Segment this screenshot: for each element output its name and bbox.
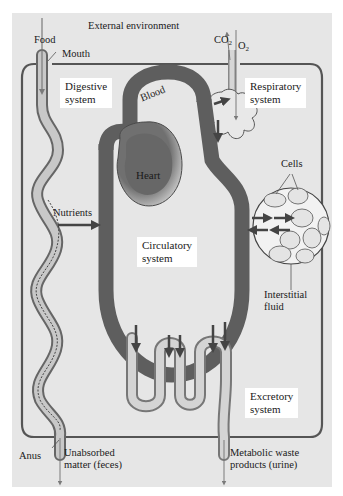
- urine-label: Metabolic wasteproducts (urine): [230, 447, 299, 471]
- excretory-system-label: Excretorysystem: [245, 388, 298, 418]
- heart-label: Heart: [136, 169, 160, 181]
- food-label: Food: [34, 34, 56, 46]
- respiratory-system-label: Respiratorysystem: [245, 78, 306, 108]
- mouth-label: Mouth: [62, 48, 90, 60]
- cells-label: Cells: [281, 158, 303, 170]
- digestive-system-label: Digestivesystem: [60, 78, 112, 108]
- interstitial-fluid-label: Interstitialfluid: [264, 289, 307, 313]
- co2-label: CO2: [214, 34, 232, 49]
- nutrients-label: Nutrients: [53, 207, 92, 219]
- anus-label: Anus: [19, 450, 41, 462]
- external-environment-label: External environment: [88, 20, 179, 32]
- feces-label: Unabsorbedmatter (feces): [64, 447, 122, 471]
- organ-systems-diagram: External environment Food Mouth CO2 O2 D…: [0, 0, 343, 496]
- circulatory-system-label: Circulatorysystem: [137, 237, 197, 267]
- o2-label: O2: [238, 40, 249, 55]
